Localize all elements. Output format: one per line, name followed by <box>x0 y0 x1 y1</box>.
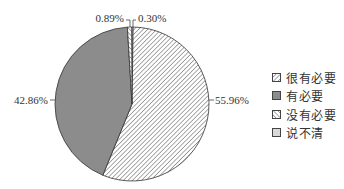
light-gray-swatch-icon <box>272 128 281 137</box>
legend-item-not-necessary: 没有必要 <box>272 105 336 124</box>
hatch-back-swatch-icon <box>272 73 281 82</box>
label-very-necessary: 55.96% <box>215 94 249 106</box>
label-not-necessary: 0.89% <box>96 12 124 24</box>
legend-label: 很有必要 <box>286 69 336 86</box>
legend-item-necessary: 有必要 <box>272 87 336 106</box>
solid-gray-swatch-icon <box>272 91 281 100</box>
legend-label: 说不清 <box>286 124 324 141</box>
leader-line <box>126 20 130 27</box>
legend-item-unclear: 说不清 <box>272 124 336 143</box>
hatch-forward-swatch-icon <box>272 110 281 119</box>
legend: 很有必要 有必要 没有必要 说不清 <box>272 68 336 142</box>
leader-line <box>133 20 136 27</box>
legend-label: 有必要 <box>286 87 324 104</box>
label-unclear: 0.30% <box>138 12 166 24</box>
legend-item-very-necessary: 很有必要 <box>272 68 336 87</box>
label-necessary: 42.86% <box>14 94 48 106</box>
pie-slices <box>55 27 209 181</box>
legend-label: 没有必要 <box>286 106 336 123</box>
